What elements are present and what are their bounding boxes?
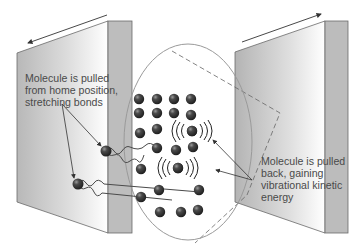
vibrating-molecule-2 <box>158 157 198 179</box>
left-annotation-line-1: Molecule is pulled <box>25 72 118 84</box>
diagram-canvas <box>0 0 362 247</box>
magnified-region-ellipse <box>124 44 252 240</box>
right-annotation-line-4: energy <box>261 191 345 203</box>
right-annotation-line-3: vibrational kinetic <box>261 179 345 191</box>
right-annotation-line-1: Molecule is pulled <box>261 155 345 167</box>
right-annotation: Molecule is pulled back, gaining vibrati… <box>261 155 345 203</box>
vibrating-molecule-1 <box>172 120 212 142</box>
right-annotation-line-2: back, gaining <box>261 167 345 179</box>
left-wall <box>17 21 132 233</box>
left-annotation: Molecule is pulled from home position, s… <box>25 72 118 108</box>
left-annotation-line-3: stretching bonds <box>25 96 118 108</box>
left-annotation-line-2: from home position, <box>25 84 118 96</box>
